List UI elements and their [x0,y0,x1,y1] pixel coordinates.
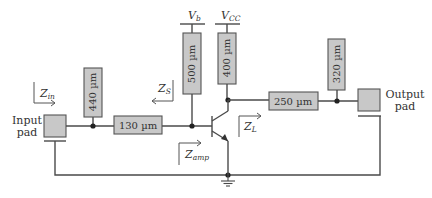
node-base [189,123,194,128]
output-pad [358,89,381,116]
stub-440um-label: 440 µm [87,72,98,111]
bias-500um-label: 500 µm [186,44,197,83]
bias-line-500um: 500 µm [180,24,205,126]
stub-440um: 440 µm [84,68,102,126]
amplifier-matching-circuit: Input pad 440 µm 130 µm 500 µm Vb 400 µm… [0,0,432,198]
zin-label: Zin [39,87,55,101]
series-line-250um: 250 µm [269,92,318,110]
zamp-label: Zamp [184,148,209,162]
zs-label: ZS [157,82,171,96]
series-line-130um: 130 µm [114,116,162,134]
input-pad [44,115,66,141]
series-130um-label: 130 µm [119,120,158,131]
series-250um-label: 250 µm [274,96,313,107]
node-stub-out [334,98,339,103]
stub-320um: 320 µm [328,39,345,101]
bjt-transistor-icon [212,100,228,175]
input-pad-label-2: pad [17,126,38,139]
node-stub-in [90,123,95,128]
vb-label: Vb [188,9,201,23]
ground-icon [221,175,235,186]
vcc-label: VCC [221,9,241,23]
stub-320um-label: 320 µm [331,44,342,83]
bias-line-400um: 400 µm [215,24,240,100]
output-pad-label-2: pad [395,100,416,113]
zl-label: ZL [243,120,257,134]
bias-400um-label: 400 µm [221,38,232,77]
